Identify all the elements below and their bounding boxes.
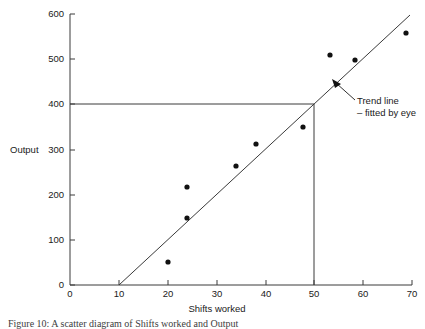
trend-line	[119, 15, 410, 285]
data-points-group	[165, 30, 408, 264]
data-point	[327, 52, 332, 57]
y-tick-label-0: 0	[59, 279, 64, 290]
x-tick-label-50: 50	[309, 288, 320, 299]
data-point	[403, 30, 408, 35]
figure-caption: Figure 10: A scatter diagram of Shifts w…	[8, 318, 238, 329]
y-axis-title: Output	[10, 144, 39, 155]
x-tick-label-30: 30	[212, 288, 223, 299]
x-tick-label-20: 20	[163, 288, 174, 299]
scatter-chart: 0 100 200 300 400 500 600 0 10 20 30 40 …	[0, 0, 425, 329]
data-point	[300, 124, 305, 129]
data-point	[352, 57, 357, 62]
callout-label-line2: – fitted by eye	[357, 107, 416, 118]
trend-line-callout: Trend line – fitted by eye	[332, 79, 416, 118]
y-tick-label-300: 300	[48, 144, 64, 155]
y-tick-label-100: 100	[48, 234, 64, 245]
y-tick-label-400: 400	[48, 98, 64, 109]
data-point	[233, 163, 238, 168]
x-tick-label-0: 0	[67, 288, 72, 299]
y-tick-label-500: 500	[48, 53, 64, 64]
callout-label-line1: Trend line	[357, 95, 399, 106]
x-tick-label-10: 10	[114, 288, 125, 299]
figure-container: 0 100 200 300 400 500 600 0 10 20 30 40 …	[0, 0, 425, 329]
data-point	[184, 184, 189, 189]
data-point	[165, 259, 170, 264]
x-tick-group: 0 10 20 30 40 50 60 70	[67, 280, 417, 299]
data-point	[184, 215, 189, 220]
x-axis-title: Shifts worked	[188, 303, 245, 314]
axes-group	[70, 14, 412, 285]
y-tick-group: 0 100 200 300 400 500 600	[48, 8, 75, 290]
data-point	[253, 141, 258, 146]
reference-lines-group	[70, 104, 314, 285]
x-tick-label-60: 60	[358, 288, 369, 299]
x-tick-label-70: 70	[407, 288, 418, 299]
y-tick-label-600: 600	[48, 8, 64, 19]
y-tick-label-200: 200	[48, 189, 64, 200]
x-tick-label-40: 40	[261, 288, 272, 299]
callout-leader-line	[336, 83, 355, 100]
